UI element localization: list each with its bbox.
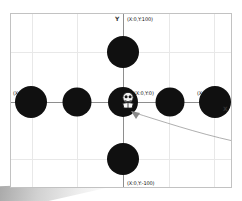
marker-y-positive[interactable] <box>107 36 139 68</box>
y-axis-letter: Y <box>115 16 119 22</box>
marker-x-negative-mid[interactable] <box>63 88 92 117</box>
axis-label-bottom: (X:0,Y:-100) <box>127 180 154 186</box>
axis-label-top: (X:0,Y:100) <box>127 16 153 22</box>
axis-label-left: (X:-100,Y:0) <box>13 90 40 96</box>
coordinate-plot-frame: Y X (X:0,Y:100) (X:0,Y:-100) (X:-100,Y:0… <box>10 13 232 188</box>
x-axis-letter: X <box>223 106 228 112</box>
axis-label-right: (X:100,Y:0) <box>197 90 223 96</box>
axis-label-origin: (X:0,Y:0) <box>134 90 154 96</box>
marker-x-positive-mid[interactable] <box>156 88 185 117</box>
screenshot-canvas: Y X (X:0,Y:100) (X:0,Y:-100) (X:-100,Y:0… <box>0 0 242 201</box>
marker-y-negative[interactable] <box>107 143 139 175</box>
